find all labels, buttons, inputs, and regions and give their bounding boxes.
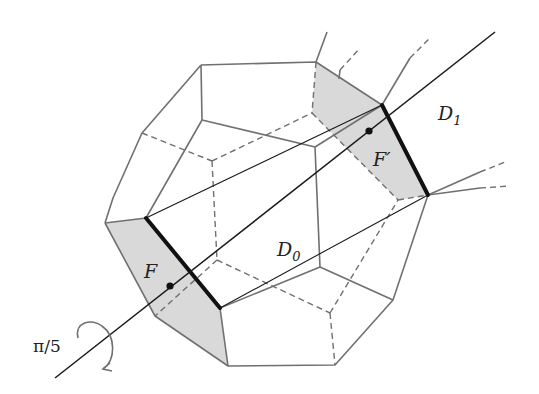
axis-point-F-prime (365, 127, 372, 134)
rotation-axis (55, 32, 495, 378)
label-F: F (143, 260, 158, 282)
dodecahedron-diagram: D1 D0 F F′ π/5 (0, 0, 539, 394)
label-D1: D1 (437, 102, 462, 128)
rotation-arrowhead-icon (103, 363, 112, 371)
axis-point-F (166, 282, 173, 289)
label-rotation-angle: π/5 (33, 336, 61, 356)
rotation-arrow-icon (77, 322, 112, 369)
label-F-prime: F′ (372, 148, 391, 170)
label-D0: D0 (276, 238, 301, 264)
